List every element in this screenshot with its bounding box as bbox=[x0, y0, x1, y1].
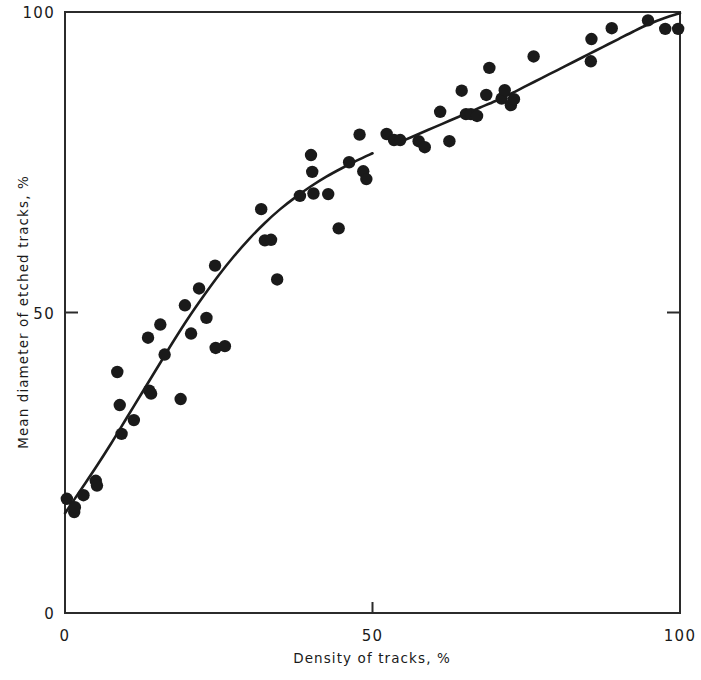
y-tick-label-0: 0 bbox=[44, 605, 55, 623]
data-point bbox=[174, 393, 186, 405]
data-point bbox=[158, 348, 170, 360]
data-point bbox=[343, 156, 355, 168]
scatter-plot-figure: 050100 050100 Density of tracks, % Mean … bbox=[0, 0, 701, 680]
data-point bbox=[306, 166, 318, 178]
data-point bbox=[434, 106, 446, 118]
tick-marks bbox=[65, 313, 680, 614]
data-point bbox=[527, 50, 539, 62]
data-point bbox=[659, 23, 671, 35]
data-point bbox=[255, 203, 267, 215]
data-point bbox=[483, 62, 495, 74]
data-point bbox=[77, 489, 89, 501]
data-point bbox=[128, 414, 140, 426]
data-point bbox=[353, 128, 365, 140]
x-tick-label-50: 50 bbox=[362, 627, 384, 645]
data-point bbox=[508, 93, 520, 105]
data-point bbox=[142, 332, 154, 344]
fit-curve-segment-left bbox=[65, 153, 373, 513]
data-point bbox=[111, 366, 123, 378]
data-point bbox=[305, 149, 317, 161]
x-tick-label-0: 0 bbox=[60, 627, 71, 645]
x-axis-label: Density of tracks, % bbox=[293, 650, 451, 666]
data-point bbox=[200, 312, 212, 324]
y-tick-label-50: 50 bbox=[33, 305, 55, 323]
y-axis-label: Mean diameter of etched tracks, % bbox=[15, 175, 31, 449]
data-point bbox=[145, 387, 157, 399]
x-tick-label-100: 100 bbox=[664, 627, 697, 645]
data-point bbox=[265, 234, 277, 246]
data-point bbox=[471, 110, 483, 122]
data-point bbox=[360, 173, 372, 185]
data-point bbox=[185, 327, 197, 339]
plot-axes bbox=[65, 12, 680, 613]
y-tick-label-100: 100 bbox=[22, 4, 55, 22]
data-point bbox=[480, 89, 492, 101]
data-point-group bbox=[61, 14, 685, 518]
data-point bbox=[322, 188, 334, 200]
data-point bbox=[219, 340, 231, 352]
data-point bbox=[307, 187, 319, 199]
data-point bbox=[271, 273, 283, 285]
data-point bbox=[672, 23, 684, 35]
data-point bbox=[115, 428, 127, 440]
data-point bbox=[332, 222, 344, 234]
data-point bbox=[606, 22, 618, 34]
data-point bbox=[209, 259, 221, 271]
data-point bbox=[443, 135, 455, 147]
data-point bbox=[179, 299, 191, 311]
data-point bbox=[419, 141, 431, 153]
data-point bbox=[455, 85, 467, 97]
data-point bbox=[642, 14, 654, 26]
data-point bbox=[193, 282, 205, 294]
data-point bbox=[499, 84, 511, 96]
data-point bbox=[91, 479, 103, 491]
data-point bbox=[154, 318, 166, 330]
data-point bbox=[394, 134, 406, 146]
axis-frame bbox=[65, 12, 680, 613]
data-point bbox=[114, 399, 126, 411]
data-point bbox=[294, 190, 306, 202]
data-point bbox=[585, 55, 597, 67]
data-point bbox=[69, 501, 81, 513]
x-tick-labels: 050100 bbox=[60, 627, 697, 645]
fit-curve-segment-right bbox=[403, 13, 680, 140]
data-point bbox=[585, 33, 597, 45]
